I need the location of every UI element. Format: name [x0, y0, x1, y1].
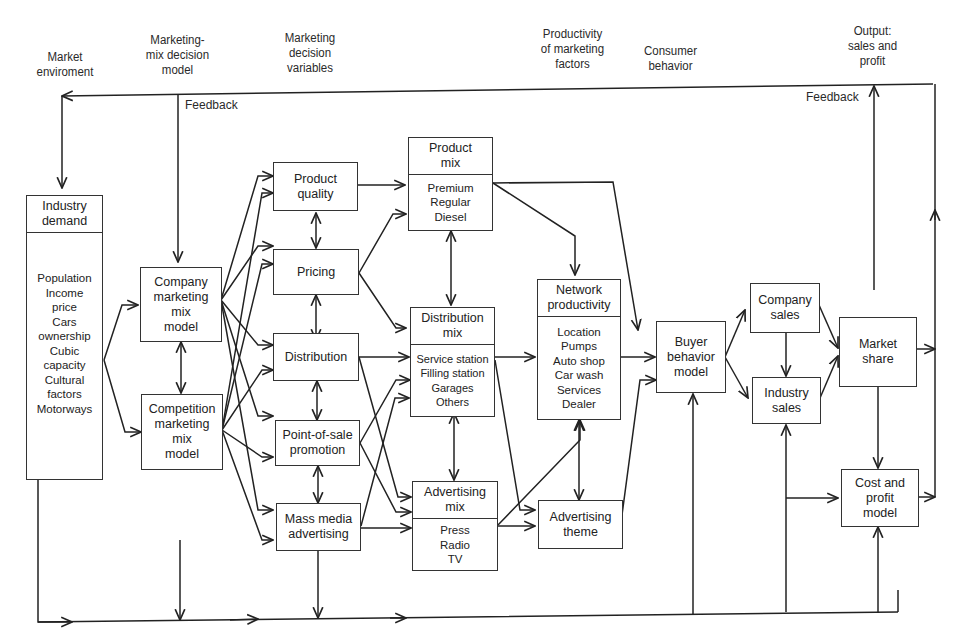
- box-distribution: Distribution: [273, 333, 359, 381]
- box-distribution-mix: Distribution mix Service station Filling…: [410, 307, 495, 417]
- box-product-mix: Product mix Premium Regular Diesel: [408, 137, 493, 231]
- box-product-mix-title: Product mix: [409, 138, 492, 175]
- box-industry-sales: Industry sales: [752, 377, 821, 424]
- box-product-quality: Product quality: [273, 162, 358, 211]
- box-distribution-mix-title: Distribution mix: [411, 308, 494, 345]
- box-mass-media-advertising: Mass media advertising: [276, 503, 361, 551]
- label-productivity-marketing-factors: Productivity of marketing factors: [529, 27, 616, 72]
- box-advertising-mix: Advertising mix Press Radio TV: [412, 481, 498, 571]
- box-point-of-sale-promotion: Point-of-sale promotion: [275, 420, 360, 466]
- box-cost-and-profit-model: Cost and profit model: [841, 469, 919, 527]
- box-industry-demand: Industry demand Population Income price …: [26, 195, 103, 480]
- box-distribution-mix-items: Service station Filling station Garages …: [411, 345, 494, 416]
- label-marketing-mix-decision-model: Marketing- mix decision model: [134, 33, 221, 78]
- box-industry-demand-items: Population Income price Cars ownership C…: [27, 233, 102, 479]
- box-industry-demand-title: Industry demand: [27, 196, 102, 233]
- feedback-line-top: [62, 84, 933, 96]
- box-buyer-behavior-model: Buyer behavior model: [656, 321, 726, 393]
- box-product-mix-items: Premium Regular Diesel: [409, 175, 492, 230]
- box-network-productivity-title: Network productivity: [538, 280, 620, 317]
- label-marketing-decision-variables: Marketing decision variables: [269, 31, 352, 76]
- label-feedback-left: Feedback: [185, 98, 238, 112]
- box-network-productivity-items: Location Pumps Auto shop Car wash Servic…: [538, 317, 620, 419]
- box-market-share: Market share: [839, 317, 917, 387]
- box-advertising-theme: Advertising theme: [538, 500, 623, 549]
- label-feedback-right: Feedback: [806, 90, 859, 104]
- box-network-productivity: Network productivity Location Pumps Auto…: [537, 279, 621, 420]
- box-company-sales: Company sales: [750, 283, 820, 333]
- box-pricing: Pricing: [273, 249, 359, 295]
- label-output-sales-profit: Output: sales and profit: [833, 24, 911, 69]
- label-market-environment: Market enviroment: [24, 50, 107, 80]
- label-consumer-behavior: Consumer behavior: [631, 44, 709, 74]
- box-advertising-mix-title: Advertising mix: [413, 482, 497, 519]
- box-advertising-mix-items: Press Radio TV: [413, 519, 497, 571]
- box-company-marketing-mix: Company marketing mix model: [140, 267, 222, 342]
- box-competition-marketing-mix: Competition marketing mix model: [141, 394, 223, 470]
